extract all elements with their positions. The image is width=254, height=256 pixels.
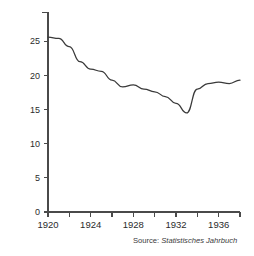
- y-tick-label: 15: [30, 105, 40, 115]
- x-tick-label: 1924: [80, 219, 101, 230]
- y-tick-label: 10: [30, 139, 40, 149]
- source-publication-title: Statistisches Jahrbuch: [161, 236, 237, 245]
- chart-canvas: 0510152025 19201924192819321936: [0, 0, 254, 256]
- y-axis-ticks: 0510152025: [30, 36, 48, 217]
- y-tick-label: 25: [30, 36, 40, 46]
- x-tick-label: 1936: [208, 219, 229, 230]
- birth-rate-line: [48, 37, 240, 113]
- source-note: Source: Statistisches Jahrbuch: [133, 236, 237, 245]
- x-tick-label: 1932: [165, 219, 186, 230]
- y-tick-label: 5: [35, 173, 40, 183]
- axes: [42, 12, 240, 212]
- y-tick-label: 0: [35, 207, 40, 217]
- x-tick-label: 1920: [37, 219, 58, 230]
- data-series-group: [48, 37, 240, 113]
- y-tick-label: 20: [30, 71, 40, 81]
- birth-rate-line-chart: 0510152025 19201924192819321936 Birth ra…: [0, 0, 254, 256]
- source-prefix-label: Source:: [133, 236, 159, 245]
- x-axis-ticks: 19201924192819321936: [37, 212, 240, 230]
- x-tick-label: 1928: [123, 219, 144, 230]
